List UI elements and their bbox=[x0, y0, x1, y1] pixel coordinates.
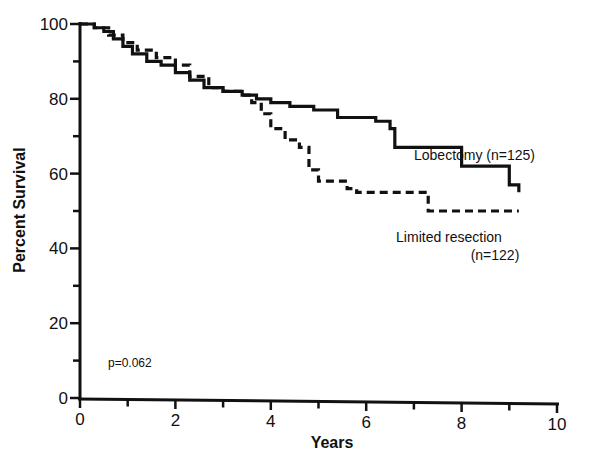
survival-chart: 020406080100 0246810 Years Percent Survi… bbox=[0, 0, 608, 461]
x-tick-label: 0 bbox=[75, 410, 84, 429]
y-tick-label: 0 bbox=[59, 389, 68, 408]
y-tick-label: 60 bbox=[49, 165, 68, 184]
lobectomy-label: Lobectomy (n=125) bbox=[414, 147, 535, 163]
p-value-annotation: p=0.062 bbox=[108, 356, 152, 370]
x-tick-label: 4 bbox=[266, 412, 275, 431]
y-tick-label: 80 bbox=[49, 90, 68, 109]
x-tick-label: 8 bbox=[457, 414, 466, 433]
limited-resection-curve bbox=[80, 24, 519, 211]
x-tick-label: 6 bbox=[361, 413, 370, 432]
y-axis-title: Percent Survival bbox=[11, 147, 28, 272]
limited-resection-label: Limited resection bbox=[396, 229, 502, 245]
y-ticks: 020406080100 bbox=[40, 15, 80, 408]
limited-resection-n-label: (n=122) bbox=[471, 247, 520, 263]
x-tick-label: 2 bbox=[171, 411, 180, 430]
y-tick-label: 100 bbox=[40, 15, 68, 34]
y-tick-label: 40 bbox=[49, 239, 68, 258]
y-tick-label: 20 bbox=[49, 314, 68, 333]
x-axis-title: Years bbox=[311, 434, 354, 451]
x-tick-label: 10 bbox=[548, 415, 567, 434]
